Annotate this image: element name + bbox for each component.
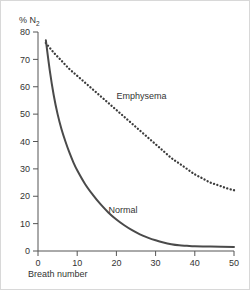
- y-axis-ticks: 01020304050607080: [20, 27, 38, 256]
- nitrogen-washout-chart-figure: % N2 01020304050607080 01020304050 Emphy…: [0, 0, 250, 290]
- y-tick-label: 80: [20, 27, 30, 37]
- x-tick-label: 10: [72, 258, 82, 268]
- y-tick-label: 70: [20, 55, 30, 65]
- x-axis-title: Breath number: [28, 269, 88, 279]
- series-label-normal: Normal: [109, 205, 138, 215]
- chart-canvas: % N2 01020304050607080 01020304050 Emphy…: [1, 1, 250, 290]
- x-tick-label: 0: [35, 258, 40, 268]
- x-tick-label: 50: [229, 258, 239, 268]
- series-line-emphysema: [46, 43, 234, 190]
- y-axis-title-main: % N: [19, 15, 36, 25]
- x-axis-ticks: 01020304050: [35, 251, 239, 268]
- y-tick-label: 60: [20, 82, 30, 92]
- x-tick-label: 20: [111, 258, 121, 268]
- y-tick-label: 20: [20, 191, 30, 201]
- y-tick-label: 30: [20, 164, 30, 174]
- series-line-normal: [46, 40, 234, 247]
- x-tick-label: 40: [190, 258, 200, 268]
- y-tick-label: 50: [20, 109, 30, 119]
- y-axis-title: % N2: [19, 15, 40, 27]
- y-axis-title-subscript: 2: [36, 20, 40, 27]
- axis-spines: [38, 32, 234, 251]
- series-label-emphysema: Emphysema: [116, 91, 166, 101]
- y-tick-label: 10: [20, 219, 30, 229]
- y-axis-title-text: % N2: [19, 15, 40, 27]
- x-tick-label: 30: [151, 258, 161, 268]
- y-tick-label: 0: [25, 246, 30, 256]
- y-tick-label: 40: [20, 137, 30, 147]
